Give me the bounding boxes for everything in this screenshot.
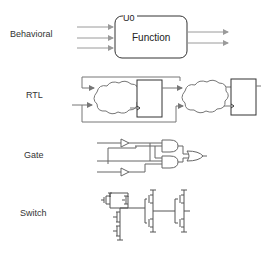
behavioral-level: U0 Function [77, 12, 228, 58]
inverter-2 [121, 168, 129, 176]
and-gate-1 [162, 140, 178, 152]
gate-level [97, 139, 207, 176]
instance-name: U0 [123, 13, 135, 23]
rtl-level [72, 77, 261, 122]
switch-level [101, 190, 190, 240]
abstraction-levels-diagram: U0 Function [0, 0, 263, 255]
function-label: Function [132, 32, 170, 43]
and-gate-2 [162, 156, 178, 168]
inverter-1 [121, 139, 129, 147]
or-gate [187, 151, 203, 161]
